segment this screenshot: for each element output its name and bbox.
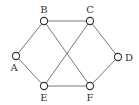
edges xyxy=(16,21,118,86)
edge-a-e xyxy=(16,56,44,86)
edge-c-d xyxy=(90,21,118,57)
node-label-a: A xyxy=(9,62,18,73)
node-label-e: E xyxy=(40,92,47,103)
node-d xyxy=(114,53,121,60)
node-label-d: D xyxy=(125,52,133,63)
edge-a-b xyxy=(16,21,44,56)
node-label-c: C xyxy=(86,4,94,15)
node-a xyxy=(12,52,19,59)
node-label-f: F xyxy=(87,92,94,103)
node-b xyxy=(40,17,47,24)
node-c xyxy=(86,17,93,24)
graph-diagram: ABCDEF xyxy=(0,0,139,105)
node-e xyxy=(40,82,47,89)
edge-d-f xyxy=(90,57,118,86)
labels: ABCDEF xyxy=(9,4,133,103)
node-label-b: B xyxy=(40,4,47,15)
node-f xyxy=(86,82,93,89)
